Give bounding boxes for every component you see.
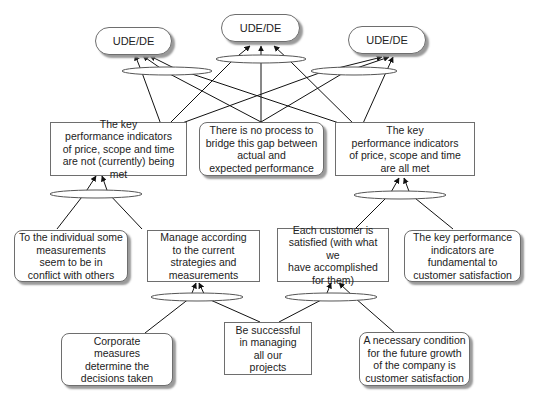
necessary-condition-node: A necessary condition for the future gro… — [359, 332, 470, 386]
connector — [279, 298, 325, 322]
connector — [261, 72, 345, 122]
and-connector-ellipse — [354, 191, 446, 199]
connector — [174, 68, 360, 130]
connector — [145, 298, 190, 333]
manage-current-node: Manage according to the current strategi… — [147, 230, 260, 282]
kpi-not-met-node: The key performance indicators of price,… — [50, 122, 187, 176]
connector — [410, 194, 453, 229]
kpi-all-met-node: The key performance indicators of price,… — [335, 122, 475, 176]
and-connector-ellipse — [151, 293, 243, 301]
connector — [206, 298, 260, 322]
be-successful-node: Be successful in managing all our projec… — [224, 322, 312, 375]
and-connector-ellipse — [122, 67, 212, 75]
customer-satisfied-node: Each customer is satisfied (with what we… — [277, 228, 389, 282]
connector — [360, 70, 387, 130]
corporate-measures-node: Corporate measures determine the decisio… — [61, 333, 173, 386]
no-process-node: There is no process to bridge this gap b… — [199, 122, 324, 176]
logic-tree-diagram: UDE/DE UDE/DE UDE/DE The key performance… — [0, 0, 535, 402]
ude-right-node: UDE/DE — [348, 26, 426, 54]
and-connector-ellipse — [50, 190, 142, 198]
connector — [57, 193, 85, 229]
kpi-fundamental-node: The key performance indicators are funda… — [404, 230, 521, 282]
individual-conflict-node: To the individual some measurements seem… — [14, 230, 128, 282]
and-connector-ellipse — [216, 55, 306, 63]
ude-left-node: UDE/DE — [95, 27, 172, 55]
connector — [355, 298, 395, 333]
and-connector-ellipse — [285, 293, 377, 301]
connector — [108, 193, 142, 229]
and-connector-ellipse — [311, 67, 397, 75]
ude-center-node: UDE/DE — [221, 14, 300, 42]
